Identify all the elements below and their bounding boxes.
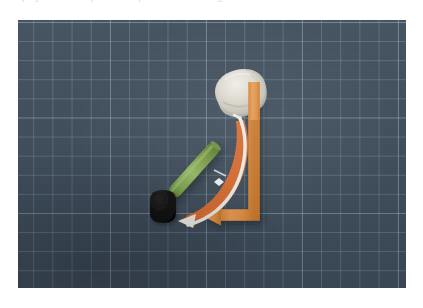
orange-angle-arrow-over-ball (248, 82, 259, 120)
caption-strip: the physical setup for the pendulum swin… (0, 0, 423, 11)
green-rod (166, 140, 222, 200)
photograph (18, 20, 406, 288)
black-cap (150, 190, 176, 223)
scene-objects-layer (18, 20, 406, 288)
caption-text: the physical setup for the pendulum swin… (2, 0, 302, 2)
